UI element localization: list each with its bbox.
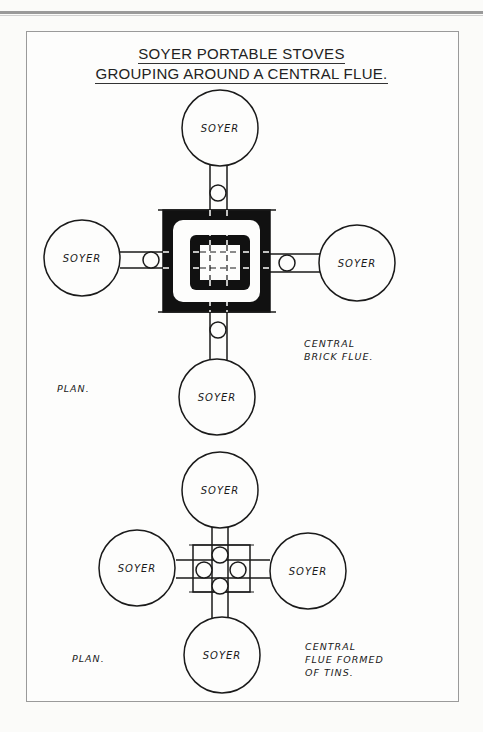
note-bottom-3: OF TINS. (305, 667, 354, 678)
note-bottom-2: FLUE FORMED (305, 654, 384, 665)
note-bottom-1: CENTRAL (305, 641, 356, 652)
plan-label-bottom: PLAN. (72, 653, 105, 664)
tin-stove-label-bottom: SOYER (203, 650, 242, 661)
tin-stove-label-right: SOYER (289, 566, 328, 577)
tin-stove-label-top: SOYER (201, 485, 240, 496)
plan-label-top: PLAN. (57, 383, 90, 394)
stove-plans: SOYER SOYER SOYER SOYER PLAN. CENTRAL BR… (0, 0, 483, 732)
stove-label-left: SOYER (63, 253, 102, 264)
tin-stove-label-left: SOYER (118, 563, 157, 574)
note-top-2: BRICK FLUE. (304, 351, 374, 362)
stove-label-bottom: SOYER (198, 392, 237, 403)
stove-label-right: SOYER (338, 258, 377, 269)
stove-label-top: SOYER (201, 123, 240, 134)
note-top-1: CENTRAL (304, 338, 355, 349)
